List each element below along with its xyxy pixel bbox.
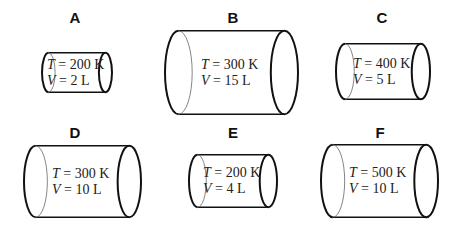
volume-value: V = 15 L	[201, 73, 258, 89]
volume-value: V = 5 L	[353, 72, 410, 88]
container-label-f: F	[375, 124, 384, 141]
cylinder-d: T = 300 KV = 10 L	[24, 145, 141, 218]
temperature-value: T = 300 K	[201, 57, 258, 73]
gas-conditions-text: T = 300 KV = 10 L	[52, 166, 109, 198]
container-label-d: D	[70, 124, 81, 141]
cylinder-b: T = 300 KV = 15 L	[165, 30, 298, 115]
cylinder-c: T = 400 KV = 5 L	[336, 43, 430, 100]
container-label-e: E	[228, 124, 238, 141]
temperature-value: T = 300 K	[52, 166, 109, 182]
temperature-value: T = 500 K	[349, 165, 406, 181]
gas-conditions-text: T = 400 KV = 5 L	[353, 56, 410, 88]
gas-conditions-text: T = 200 KV = 2 L	[47, 57, 104, 89]
gas-conditions-text: T = 200 KV = 4 L	[203, 165, 260, 197]
temperature-value: T = 200 K	[203, 165, 260, 181]
volume-value: V = 2 L	[47, 73, 104, 89]
gas-conditions-text: T = 500 KV = 10 L	[349, 165, 406, 197]
container-label-b: B	[228, 9, 239, 26]
temperature-value: T = 400 K	[353, 56, 410, 72]
gas-conditions-text: T = 300 KV = 15 L	[201, 57, 258, 89]
temperature-value: T = 200 K	[47, 57, 104, 73]
container-label-c: C	[377, 9, 388, 26]
volume-value: V = 10 L	[52, 182, 109, 198]
volume-value: V = 4 L	[203, 181, 260, 197]
container-label-a: A	[70, 9, 81, 26]
cylinder-a: T = 200 KV = 2 L	[42, 52, 112, 93]
cylinder-e: T = 200 KV = 4 L	[189, 154, 277, 208]
cylinder-f: T = 500 KV = 10 L	[321, 144, 438, 218]
volume-value: V = 10 L	[349, 181, 406, 197]
